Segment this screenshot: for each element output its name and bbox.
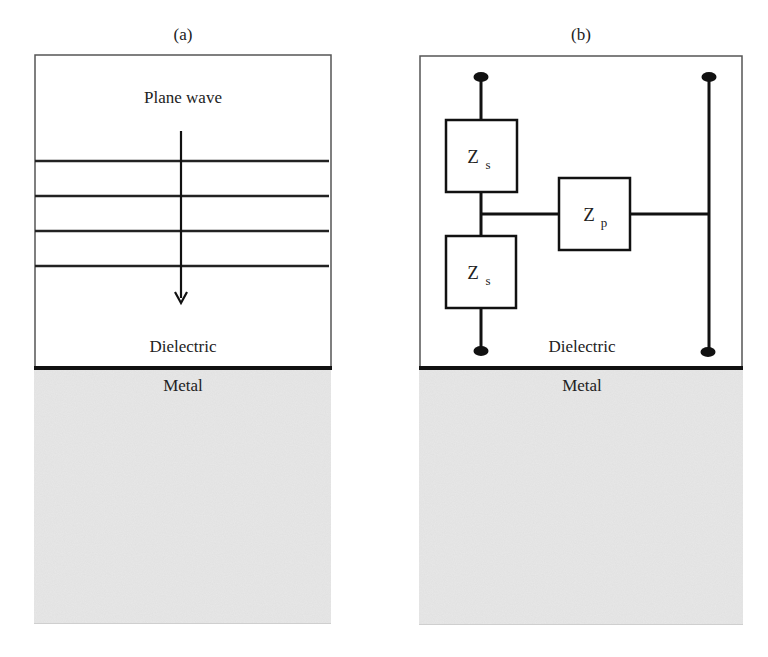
panel-b-dielectric-label: Dielectric [548,337,615,356]
zs-top-symbol: Z [467,146,479,167]
panel-a-dielectric-label: Dielectric [149,337,216,356]
terminal-bottom-right-icon [701,347,716,357]
panel-a-metal-region [34,368,331,624]
zs-bottom-subscript: s [485,273,490,288]
terminal-bottom-left-icon [474,346,489,356]
impedance-zs-top: Z s [446,120,517,192]
panel-a: (a) Plane wave Dielectric Metal [34,25,332,624]
panel-a-metal-label: Metal [163,376,203,395]
zp-symbol: Z [583,204,595,225]
zs-top-subscript: s [485,157,490,172]
panel-b: (b) Z s [419,25,743,625]
terminal-top-right-icon [702,72,717,82]
panel-b-metal-label: Metal [562,376,602,395]
panel-b-metal-region [419,368,743,625]
plane-wave-label: Plane wave [144,88,222,107]
diagram-canvas: (a) Plane wave Dielectric Metal (b) [0,0,768,657]
panel-b-label: (b) [571,25,591,44]
terminal-top-left-icon [474,72,489,82]
impedance-zp: Z p [559,178,630,250]
impedance-zs-bottom: Z s [446,236,516,308]
zs-bottom-symbol: Z [467,262,479,283]
zp-subscript: p [601,215,608,230]
panel-a-label: (a) [174,25,193,44]
